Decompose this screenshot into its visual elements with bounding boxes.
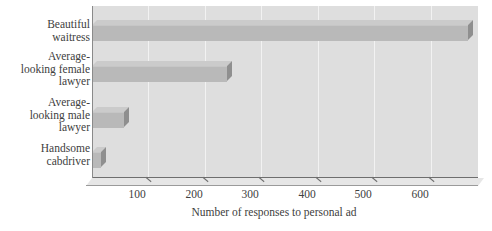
bar-side-face — [468, 20, 473, 40]
category-label-average-male-lawyer: Average- looking male lawyer — [2, 96, 90, 134]
bar-front-face — [92, 66, 227, 82]
bar-front-face — [92, 112, 124, 128]
bar-front-face — [92, 25, 468, 41]
category-label-average-female-lawyer: Average- looking female lawyer — [2, 50, 90, 88]
plot-area — [92, 6, 478, 178]
category-label-handsome-cabdriver: Handsome cabdriver — [2, 142, 90, 167]
x-axis-line — [92, 177, 478, 178]
x-tick-label-400: 400 — [287, 188, 327, 200]
y-axis-line — [92, 6, 93, 178]
bar-front-face — [92, 152, 101, 168]
x-tick-label-200: 200 — [174, 188, 214, 200]
category-label-beautiful-waitress: Beautiful waitress — [2, 18, 90, 43]
x-axis-front-edge — [86, 185, 478, 186]
x-tick-label-300: 300 — [230, 188, 270, 200]
x-axis-title: Number of responses to personal ad — [0, 206, 492, 218]
x-tick-label-500: 500 — [343, 188, 383, 200]
bar-side-face — [101, 147, 106, 167]
bar-side-face — [124, 107, 129, 127]
x-tick-label-100: 100 — [117, 188, 157, 200]
bar-chart: Beautiful waitress Average- looking fema… — [0, 0, 492, 231]
x-tick-label-600: 600 — [400, 188, 440, 200]
bar-side-face — [227, 61, 232, 81]
